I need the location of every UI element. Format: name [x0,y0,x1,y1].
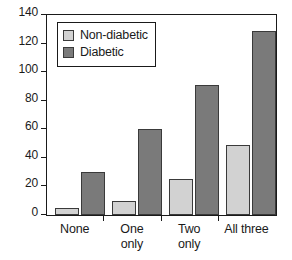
bar-group [219,15,276,215]
bar-non-diabetic [226,145,250,215]
x-axis-category-label: One only [103,222,160,252]
y-axis-tick-label: 40 [25,149,38,161]
legend-item-label: Diabetic [80,46,124,59]
y-axis-tick-label: 100 [19,63,38,75]
y-axis: 020406080100120140 [0,14,46,216]
x-axis-tick-mark [161,216,162,221]
x-axis-category-label: All three [218,222,275,237]
bar-diabetic [81,172,105,215]
y-axis-tick-label: 120 [19,35,38,47]
legend-swatch-icon [63,30,74,41]
y-axis-tick-label: 20 [25,177,38,189]
bar-diabetic [252,31,276,215]
legend-swatch-icon [63,47,74,58]
bar-chart: 020406080100120140 NoneOne onlyTwo onlyA… [0,0,292,260]
bar-diabetic [195,85,219,215]
y-axis-tick-label: 80 [25,92,38,104]
bar-non-diabetic [169,179,193,215]
x-axis-tick-mark [218,216,219,221]
x-axis-tick-mark [103,216,104,221]
legend-item: Diabetic [63,44,148,61]
bar-non-diabetic [112,201,136,215]
legend-item-label: Non-diabetic [80,29,148,42]
x-axis-labels: NoneOne onlyTwo onlyAll three [46,222,277,260]
x-axis-category-label: Two only [161,222,218,252]
y-axis-tick-label: 60 [25,120,38,132]
x-axis-category-label: None [46,222,103,237]
bar-non-diabetic [55,208,79,215]
y-axis-tick-label: 0 [32,206,38,218]
chart-legend: Non-diabeticDiabetic [57,22,156,67]
y-axis-tick-label: 140 [19,6,38,18]
legend-item: Non-diabetic [63,27,148,44]
bar-group [162,15,219,215]
bar-diabetic [138,129,162,215]
